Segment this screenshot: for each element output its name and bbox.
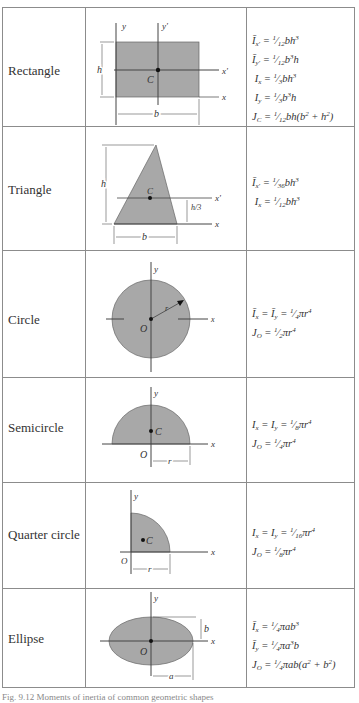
height-label: h: [101, 178, 106, 189]
shape-name: Ellipse: [8, 631, 44, 647]
formula-jc: JC = 1⁄12bh(b2 + h2): [252, 108, 333, 127]
table-row-ellipse: Ellipse y x O b a Īx = 1⁄4πab3 Īy = 1⁄4π…: [0, 588, 359, 688]
rectangle-figure: y y' x' x C h b: [84, 7, 245, 126]
centroid-label: C: [147, 74, 154, 85]
y-axis-label: y: [153, 593, 158, 603]
y-axis-label: y: [133, 491, 138, 501]
x-axis-label: x: [214, 219, 219, 229]
quarter-circle-figure: y x O C r: [84, 482, 245, 588]
formula-iy: Iy = 1⁄3b3h: [252, 89, 333, 108]
radius-label: r: [148, 564, 152, 574]
circle-figure: y x O r: [84, 250, 245, 377]
x-axis-label: x: [210, 636, 215, 646]
y-axis-label: y: [153, 388, 158, 398]
formula-ix: Ix = 1⁄12bh3: [252, 193, 300, 212]
x-prime-label: x': [221, 66, 229, 76]
formula-jo: JO = 1⁄8πr4: [252, 543, 315, 562]
formula-ix-iy: Ix = Iy = 1⁄16πr4: [252, 524, 315, 543]
semi-minor-label: b: [204, 623, 209, 634]
x-axis-label: x: [210, 315, 215, 324]
formula-list: Ix = Iy = 1⁄16πr4 JO = 1⁄8πr4: [252, 524, 315, 562]
origin-label: O: [140, 323, 147, 334]
semi-major-label: a: [169, 671, 174, 681]
shape-name: Rectangle: [8, 63, 60, 79]
origin-label: O: [140, 449, 147, 460]
formula-list: Īx′ = 1⁄36bh3 Ix = 1⁄12bh3: [252, 174, 300, 212]
table-row-quarter-circle: Quarter circle y x O C r Ix = Iy = 1⁄16π…: [0, 482, 359, 588]
centroid-label: C: [155, 426, 162, 437]
formula-iy-prime: Īy′ = 1⁄12b3h: [252, 51, 333, 70]
figure-caption: Fig. 9.12 Moments of inertia of common g…: [2, 692, 213, 702]
formula-jo: JO = 1⁄2πr4: [252, 324, 312, 343]
y-axis-label: y: [121, 21, 126, 31]
shape-name: Circle: [8, 312, 40, 328]
formula-ix-iy: Īx = Īy = 1⁄4πr4: [252, 305, 312, 324]
formula-iy: Īy = 1⁄4πa3b: [252, 637, 335, 656]
base-label: b: [142, 231, 147, 242]
third-height-label: h/3: [191, 203, 201, 212]
formula-ix-prime: Īx′ = 1⁄36bh3: [252, 174, 300, 193]
x-axis-label: x: [210, 439, 215, 449]
semicircle-figure: y x O C r: [84, 377, 245, 482]
formula-jo: JO = 1⁄4πab(a2 + b2): [252, 656, 335, 675]
origin-label: O: [121, 556, 128, 566]
y-axis-label: y: [153, 264, 158, 274]
formula-ix: Ix = 1⁄3bh3: [252, 70, 333, 89]
table-row-circle: Circle y x O r Īx = Īy = 1⁄4πr4 JO = 1⁄2…: [0, 250, 359, 377]
formula-ix-prime: Īx′ = 1⁄12bh3: [252, 32, 333, 51]
formula-list: Īx = Īy = 1⁄4πr4 JO = 1⁄2πr4: [252, 305, 312, 343]
table-row-rectangle: Rectangle y y' x' x C h b Īx′ = 1⁄12bh3 …: [0, 7, 359, 126]
formula-list: Ix = Iy = 1⁄8πr4 JO = 1⁄4πr4: [252, 416, 312, 454]
formula-list: Īx′ = 1⁄12bh3 Īy′ = 1⁄12b3h Ix = 1⁄3bh3 …: [252, 32, 333, 127]
shape-name: Semicircle: [8, 420, 64, 436]
shape-name: Quarter circle: [8, 527, 80, 543]
formula-ix: Īx = 1⁄4πab3: [252, 618, 335, 637]
height-label: h: [97, 64, 102, 75]
triangle-figure: x' x C h h/3 b: [84, 126, 245, 250]
centroid-label: C: [146, 535, 153, 546]
centroid-label: C: [147, 186, 154, 196]
origin-label: O: [140, 646, 147, 657]
x-prime-label: x': [214, 193, 222, 203]
y-prime-label: y': [161, 21, 169, 31]
base-label: b: [154, 108, 159, 119]
x-axis-label: x: [221, 92, 226, 102]
table-row-triangle: Triangle x' x C h h/3 b Īx′ = 1⁄36bh3 Ix…: [0, 126, 359, 250]
formula-list: Īx = 1⁄4πab3 Īy = 1⁄4πa3b JO = 1⁄4πab(a2…: [252, 618, 335, 675]
table-row-semicircle: Semicircle y x O C r Ix = Iy = 1⁄8πr4 JO…: [0, 377, 359, 482]
formula-jo: JO = 1⁄4πr4: [252, 435, 312, 454]
formula-ix-iy: Ix = Iy = 1⁄8πr4: [252, 416, 312, 435]
radius-label: r: [168, 456, 172, 466]
ellipse-figure: y x O b a: [84, 588, 245, 688]
shape-name: Triangle: [8, 182, 52, 198]
x-axis-label: x: [210, 547, 215, 557]
